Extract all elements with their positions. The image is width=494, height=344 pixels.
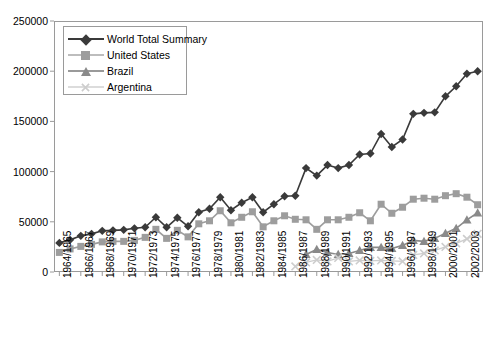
- y-axis-tick-label: 150000: [0, 116, 48, 126]
- legend-label-brazil: Brazil: [104, 65, 133, 77]
- data-point-marker: [260, 223, 267, 230]
- data-point-marker: [334, 164, 342, 172]
- data-point-marker: [227, 219, 234, 226]
- legend-item-world: World Total Summary: [64, 31, 186, 47]
- legend-item-argentina: Argentina: [64, 79, 186, 95]
- x-axis-tick-label: 1974/1975: [171, 231, 181, 278]
- x-axis-tick-label: 1964/1965: [63, 231, 73, 278]
- data-point-marker: [462, 215, 471, 223]
- chart-legend: World Total Summary United States Brazil: [63, 26, 187, 95]
- data-point-marker: [453, 190, 460, 197]
- legend-swatch-argentina: [68, 81, 104, 93]
- y-axis-tick-label: 100000: [0, 167, 48, 177]
- data-point-marker: [206, 217, 213, 224]
- series-line: [59, 71, 477, 243]
- data-point-marker: [195, 220, 202, 227]
- data-point-marker: [421, 195, 428, 202]
- y-axis-tick-label: 0: [0, 267, 48, 277]
- x-axis-tick-label: 1998/1999: [428, 231, 438, 278]
- line-chart: World Total Summary United States Brazil: [0, 0, 494, 344]
- x-marker-icon: [81, 83, 90, 92]
- y-axis-tick-label: 50000: [0, 217, 48, 227]
- data-point-marker: [474, 201, 481, 208]
- legend-label-united-states: United States: [104, 49, 170, 61]
- x-axis-tick-label: 1992/1993: [364, 231, 374, 278]
- x-axis-tick-label: 1982/1983: [256, 231, 266, 278]
- x-axis-tick-label: 1978/1979: [214, 231, 224, 278]
- data-point-marker: [217, 207, 224, 214]
- legend-swatch-brazil: [68, 65, 104, 77]
- data-point-marker: [335, 216, 342, 223]
- data-point-marker: [367, 217, 374, 224]
- legend-item-brazil: Brazil: [64, 63, 186, 79]
- x-axis-tick-label: 1972/1973: [149, 231, 159, 278]
- data-point-marker: [303, 216, 310, 223]
- data-point-marker: [473, 67, 481, 75]
- data-point-marker: [238, 214, 245, 221]
- x-axis-tick-label: 1968/1969: [106, 231, 116, 278]
- data-point-marker: [410, 196, 417, 203]
- legend-swatch-united-states: [68, 49, 104, 61]
- data-point-marker: [442, 192, 449, 199]
- x-axis-tick-label: 2000/2001: [449, 231, 459, 278]
- x-axis-tick-label: 1994/1995: [385, 231, 395, 278]
- data-point-marker: [399, 204, 406, 211]
- legend-swatch-world: [68, 33, 104, 45]
- x-axis-tick-label: 1980/1981: [235, 231, 245, 278]
- x-axis-tick-label: 1966/1967: [85, 231, 95, 278]
- data-point-marker: [324, 216, 331, 223]
- data-point-marker: [366, 149, 374, 157]
- data-point-marker: [463, 194, 470, 201]
- legend-label-argentina: Argentina: [104, 81, 152, 93]
- y-axis-tick-label: 250000: [0, 16, 48, 26]
- series-united-states: [56, 190, 481, 256]
- x-axis-tick-label: 1970/1971: [128, 231, 138, 278]
- y-axis-tick-label: 200000: [0, 66, 48, 76]
- x-axis-tick-label: 2002/2003: [471, 231, 481, 278]
- x-axis-tick-label: 1990/1991: [342, 231, 352, 278]
- data-point-marker: [378, 201, 385, 208]
- data-point-marker: [291, 191, 299, 199]
- data-point-marker: [388, 210, 395, 217]
- data-point-marker: [249, 208, 256, 215]
- x-axis-tick-label: 1986/1987: [299, 231, 309, 278]
- data-point-marker: [292, 216, 299, 223]
- data-point-marker: [281, 212, 288, 219]
- data-point-marker: [473, 208, 482, 216]
- x-axis-tick-label: 1988/1989: [321, 231, 331, 278]
- legend-label-world: World Total Summary: [104, 33, 207, 45]
- data-point-marker: [356, 209, 363, 216]
- x-axis-tick-label: 1984/1985: [278, 231, 288, 278]
- data-point-marker: [270, 217, 277, 224]
- x-axis-tick-label: 1996/1997: [407, 231, 417, 278]
- data-point-marker: [431, 108, 439, 116]
- data-point-marker: [345, 214, 352, 221]
- x-axis-tick-label: 1976/1977: [192, 231, 202, 278]
- legend-item-united-states: United States: [64, 47, 186, 63]
- data-point-marker: [420, 109, 428, 117]
- data-point-marker: [431, 196, 438, 203]
- data-point-marker: [409, 110, 417, 118]
